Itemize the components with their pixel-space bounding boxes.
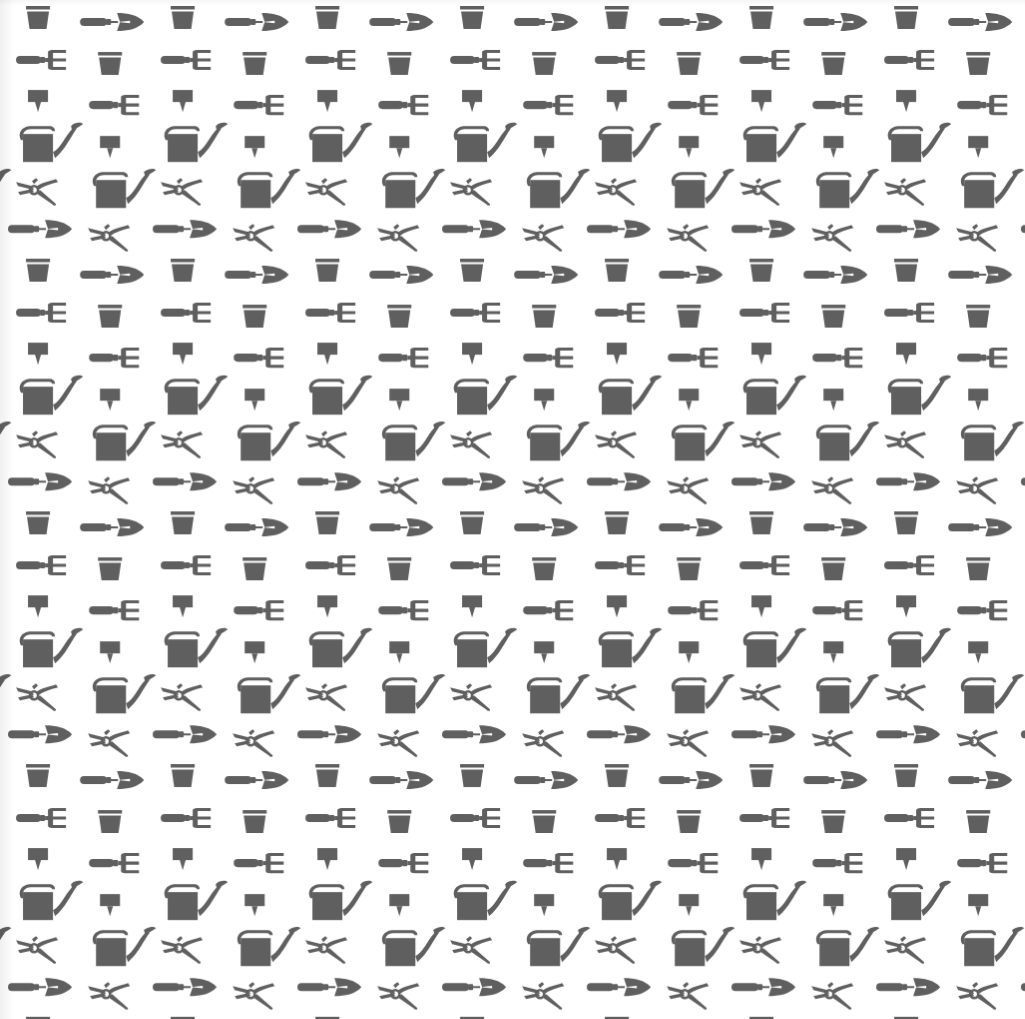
pattern-fill: [0, 0, 1025, 1019]
tool-pattern-canvas: [0, 0, 1025, 1019]
pattern-background: Gardening tools seamless pattern: [0, 0, 1025, 1019]
